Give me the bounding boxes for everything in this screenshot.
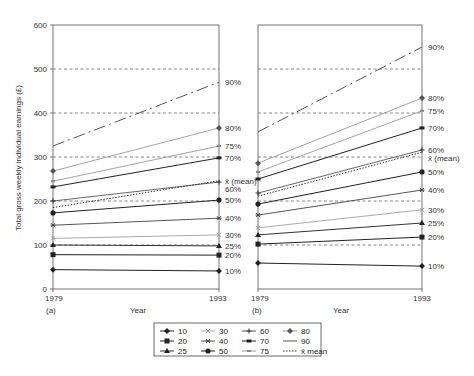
series-line-90	[258, 47, 422, 132]
dash-marker	[217, 145, 221, 147]
legend-label-80: 80	[301, 327, 310, 336]
series-end-label-40: 40%	[225, 214, 241, 223]
y-tick-label: 400	[34, 109, 48, 118]
circle-marker	[216, 198, 221, 203]
series-end-label-70: 70%	[225, 154, 241, 163]
series-end-label-80: 80%	[428, 94, 444, 103]
bar-marker	[51, 185, 56, 188]
series-line-40	[53, 218, 219, 225]
panel-a-x-axis-label: Year	[130, 306, 147, 315]
series-line-40	[258, 190, 422, 215]
y-tick-label: 200	[34, 197, 48, 206]
series-line-60	[53, 182, 219, 201]
series-line-50	[53, 200, 219, 213]
series-end-label-40: 40%	[428, 186, 444, 195]
series-line-10	[258, 263, 422, 266]
triangle-marker	[419, 220, 425, 225]
series-line-80	[53, 128, 219, 171]
series-line-25	[53, 245, 219, 246]
earnings-chart: 010020030040050060090%80%75%70%x̄ (mean)…	[0, 0, 474, 376]
diamond-marker	[419, 95, 425, 101]
plus-marker	[420, 147, 425, 152]
panel-a-label: (a)	[46, 306, 56, 315]
panel-b-x-axis-label: Year	[333, 306, 350, 315]
series-line-75	[53, 146, 219, 181]
square-marker	[217, 253, 222, 258]
bar-marker	[256, 178, 261, 181]
dash-marker	[420, 110, 424, 112]
plus-marker	[217, 180, 222, 185]
diamond-marker	[419, 263, 425, 269]
dash-marker	[247, 350, 251, 352]
y-tick-label: 100	[34, 241, 48, 250]
series-end-label-75: 75%	[225, 142, 241, 151]
y-tick-label: 0	[43, 285, 48, 294]
diamond-marker	[50, 168, 56, 174]
legend-label-30: 30	[219, 327, 228, 336]
panel-a-plot: 010020030040050060090%80%75%70%x̄ (mean)…	[34, 21, 257, 294]
panel-b-x-tick-1993: 1993	[413, 294, 431, 303]
bar-marker	[247, 340, 252, 343]
series-end-label-50: 50%	[225, 196, 241, 205]
dash-marker	[51, 180, 55, 182]
legend-label-mean: x̄ mean	[301, 347, 327, 356]
panel-b-plot: 90%80%75%70%60%x̄ (mean)50%40%30%25%20%1…	[255, 25, 460, 292]
series-end-label-50: 50%	[428, 168, 444, 177]
series-end-label-60: 60%	[225, 185, 241, 194]
series-end-label-80: 80%	[225, 124, 241, 133]
legend-label-90: 90	[301, 337, 310, 346]
legend-label-70: 70	[260, 337, 269, 346]
plus-marker	[51, 199, 56, 204]
y-axis-label: Total gross weekly individual earnings (…	[14, 85, 23, 231]
legend: 1020253040506070758090x̄ mean	[154, 323, 327, 356]
panel-b-label: (b)	[252, 306, 262, 315]
y-tick-label: 600	[34, 21, 48, 30]
series-end-label-30: 30%	[428, 206, 444, 215]
panel-a-x-tick-1993: 1993	[209, 294, 227, 303]
panel-a-x-tick-1979: 1979	[45, 294, 63, 303]
series-end-label-10: 10%	[225, 267, 241, 276]
square-marker	[256, 242, 261, 247]
legend-label-50: 50	[219, 347, 228, 356]
series-end-label-20: 20%	[428, 233, 444, 242]
series-line-mean	[258, 152, 422, 196]
circle-marker	[255, 201, 260, 206]
series-line-mean	[53, 181, 219, 208]
series-end-label-mean: x̄ (mean)	[428, 154, 460, 163]
series-line-75	[258, 111, 422, 172]
y-tick-label: 500	[34, 65, 48, 74]
circle-marker	[50, 210, 55, 215]
panel-b-x-tick-1979: 1979	[251, 294, 269, 303]
series-end-label-10: 10%	[428, 262, 444, 271]
square-marker	[165, 339, 170, 344]
diamond-marker	[255, 260, 261, 266]
series-line-90	[53, 82, 219, 146]
series-end-label-90: 90%	[225, 78, 241, 87]
series-end-label-25: 25%	[225, 242, 241, 251]
series-line-30	[53, 235, 219, 239]
legend-label-20: 20	[178, 337, 187, 346]
series-line-20	[258, 237, 422, 244]
square-marker	[51, 252, 56, 257]
diamond-marker	[216, 125, 222, 131]
legend-label-75: 75	[260, 347, 269, 356]
series-end-label-70: 70%	[428, 124, 444, 133]
series-line-50	[258, 172, 422, 204]
series-line-10	[53, 270, 219, 271]
diamond-marker	[216, 268, 222, 274]
bar-marker	[217, 156, 222, 159]
legend-label-40: 40	[219, 337, 228, 346]
series-end-label-30: 30%	[225, 231, 241, 240]
circle-marker	[419, 169, 424, 174]
diamond-marker	[50, 267, 56, 273]
series-end-label-75: 75%	[428, 107, 444, 116]
triangle-marker	[50, 242, 56, 247]
series-end-label-90: 90%	[428, 43, 444, 52]
square-marker	[420, 235, 425, 240]
plus-marker	[256, 191, 261, 196]
series-end-label-20: 20%	[225, 251, 241, 260]
bar-marker	[420, 126, 425, 129]
dash-marker	[256, 171, 260, 173]
legend-label-10: 10	[178, 327, 187, 336]
y-tick-label: 300	[34, 153, 48, 162]
